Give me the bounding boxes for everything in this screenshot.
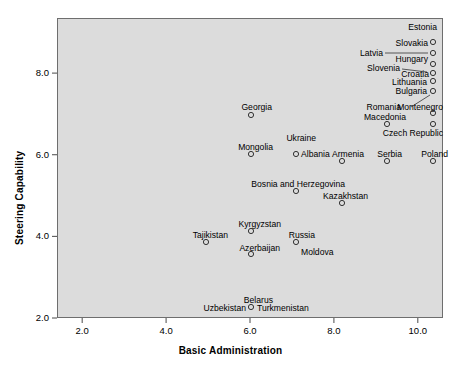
y-axis-title: Steering Capability	[14, 151, 25, 245]
x-tick-label: 10.0	[398, 325, 438, 336]
point-label-uzbekistan: Uzbekistan	[203, 303, 246, 313]
point-label-poland: Poland	[421, 149, 448, 159]
data-point-czech-republic[interactable]	[430, 121, 435, 126]
data-point-bosnia-and-herzegovina[interactable]	[293, 188, 298, 193]
point-label-moldova: Moldova	[301, 247, 334, 257]
point-label-armenia: Armenia	[332, 149, 364, 159]
data-point-romania-macedonia[interactable]	[384, 121, 389, 126]
x-tick-label: 2.0	[62, 325, 102, 336]
point-label-romania: Romania	[367, 102, 402, 112]
point-label-turkmenistan: Turkmenistan	[257, 303, 309, 313]
point-label-kazakhstan: Kazakhstan	[323, 191, 368, 201]
point-label-russia: Russia	[289, 230, 315, 240]
data-point-lithuania[interactable]	[430, 78, 435, 83]
point-label-hungary: Hungary	[396, 54, 429, 64]
point-label-tajikistan: Tajikistan	[193, 230, 229, 240]
y-tick-label: 2.0	[15, 312, 49, 323]
point-label-latvia: Latvia	[360, 48, 383, 58]
data-point-kyrgyzstan[interactable]	[248, 228, 253, 233]
point-label-czech-republic: Czech Republic	[383, 128, 444, 138]
y-tick-label: 8.0	[15, 67, 49, 78]
x-tick-label: 4.0	[146, 325, 186, 336]
point-label-estonia: Estonia	[408, 22, 437, 32]
point-label-montenegro: Montenegro	[397, 102, 443, 112]
data-point-slovakia-latvia[interactable]	[430, 50, 435, 55]
data-point-slovenia-croatia[interactable]	[430, 70, 435, 75]
point-label-kyrgyzstan: Kyrgyzstan	[238, 219, 281, 229]
data-point-mongolia[interactable]	[248, 151, 253, 156]
point-label-serbia: Serbia	[377, 149, 402, 159]
x-tick-label: 6.0	[230, 325, 270, 336]
data-point-ukraine-albania[interactable]	[293, 151, 298, 156]
data-point-hungary[interactable]	[430, 61, 435, 66]
point-label-slovakia: Slovakia	[396, 38, 429, 48]
data-point-kazakhstan[interactable]	[339, 200, 344, 205]
point-label-slovenia: Slovenia	[367, 63, 400, 73]
point-label-ukraine: Ukraine	[286, 133, 316, 143]
data-point-georgia[interactable]	[248, 112, 253, 117]
point-label-albania: Albania	[301, 149, 330, 159]
x-axis-title: Basic Administration	[0, 345, 461, 356]
x-tick-label: 8.0	[314, 325, 354, 336]
point-label-bulgaria: Bulgaria	[395, 86, 427, 96]
data-point-bulgaria[interactable]	[430, 88, 435, 93]
data-point-labels: EstoniaSlovakiaLatviaHungarySloveniaCroa…	[193, 22, 449, 313]
scatter-chart: EstoniaSlovakiaLatviaHungarySloveniaCroa…	[0, 0, 461, 368]
data-point-russia-moldova[interactable]	[293, 239, 298, 244]
data-point-poland[interactable]	[430, 158, 435, 163]
point-label-bosnia-and-herzegovina: Bosnia and Herzegovina	[251, 179, 345, 189]
data-point-belarus-uzbekistan-turkmenistan[interactable]	[248, 304, 253, 309]
point-label-mongolia: Mongolia	[238, 142, 273, 152]
plot-overlay: EstoniaSlovakiaLatviaHungarySloveniaCroa…	[0, 0, 461, 368]
data-point-estonia[interactable]	[430, 39, 435, 44]
data-point-armenia[interactable]	[339, 158, 344, 163]
data-point-serbia[interactable]	[384, 158, 389, 163]
point-label-macedonia: Macedonia	[364, 112, 406, 122]
point-label-georgia: Georgia	[241, 102, 272, 112]
data-point-tajikistan[interactable]	[203, 239, 208, 244]
point-label-azerbaijan: Azerbaijan	[239, 243, 280, 253]
